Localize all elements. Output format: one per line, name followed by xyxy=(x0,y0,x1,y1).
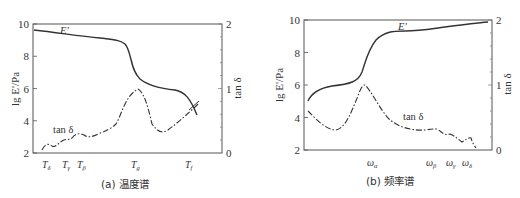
ytick-right-a-0: 0 xyxy=(226,147,232,159)
ytick-left-b-6: 6 xyxy=(295,79,301,91)
marker-omega-delta: ωδ xyxy=(462,157,473,169)
marker-T-gamma: Tγ xyxy=(62,159,71,171)
ytick-left-b-4: 4 xyxy=(295,112,301,124)
label-E-b: E' xyxy=(397,21,407,32)
right-ticks-b xyxy=(488,20,492,137)
panel-a: 10 8 6 4 2 2 1 0 lg E'/Pa tan δ E' tan δ… xyxy=(9,18,243,171)
curve-E-a xyxy=(34,30,197,115)
ytick-right-b-0: 0 xyxy=(496,144,502,156)
ytick-left-a-6: 6 xyxy=(24,83,30,95)
ytick-left-b-10: 10 xyxy=(289,14,301,26)
marker-omega-beta: ωβ xyxy=(426,157,437,169)
panel-b: 10 8 6 4 2 2 1 0 lg E'/Pa tan δ E' tan δ… xyxy=(273,14,513,169)
ytick-left-a-8: 8 xyxy=(24,50,30,62)
marker-T-g: Tg xyxy=(131,159,141,171)
marker-T-beta: Tβ xyxy=(77,159,87,171)
label-E-a: E' xyxy=(59,25,69,36)
marker-T-f: Tf xyxy=(185,159,194,171)
ylabel-left-b: lg E'/Pa xyxy=(273,68,285,102)
ylabel-right-b: tan δ xyxy=(501,73,513,94)
figure: 10 8 6 4 2 2 1 0 lg E'/Pa tan δ E' tan δ… xyxy=(0,0,520,198)
plot-frame-b xyxy=(304,20,492,150)
ytick-left-b-2: 2 xyxy=(295,144,301,156)
ytick-left-b-8: 8 xyxy=(295,47,301,59)
ytick-right-a-2: 2 xyxy=(226,18,232,30)
caption-a: (a) 温度谱 xyxy=(101,176,149,191)
right-ticks-a xyxy=(218,24,222,140)
label-tan-b: tan δ xyxy=(403,111,423,122)
left-ticks-a xyxy=(33,24,37,153)
ylabel-right-a: tan δ xyxy=(231,77,243,98)
marker-omega-gamma: ωγ xyxy=(446,157,456,169)
left-ticks-b xyxy=(304,20,308,150)
ytick-left-a-4: 4 xyxy=(24,115,30,127)
curve-tan-b xyxy=(308,85,476,148)
ytick-left-a-10: 10 xyxy=(18,18,30,30)
ylabel-left-a: lg E'/Pa xyxy=(9,72,21,106)
marker-T-delta: Tδ xyxy=(42,159,52,171)
ytick-right-b-2: 2 xyxy=(496,14,502,26)
ytick-left-a-2: 2 xyxy=(24,147,30,159)
chart-canvas: 10 8 6 4 2 2 1 0 lg E'/Pa tan δ E' tan δ… xyxy=(0,0,520,198)
label-tan-a: tan δ xyxy=(53,124,73,135)
caption-b: (b) 频率谱 xyxy=(366,173,414,188)
marker-omega-alpha: ωα xyxy=(367,157,378,169)
curve-tan-a xyxy=(42,89,198,150)
curve-E-b xyxy=(308,22,488,101)
